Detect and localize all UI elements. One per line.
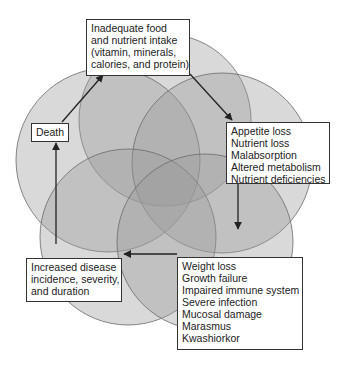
node-text: Impaired immune system (182, 284, 298, 296)
node-text: Inadequate food (91, 22, 185, 34)
node-text: (vitamin, minerals, (91, 46, 185, 58)
node-increased-disease: Increased disease incidence, severity, a… (26, 258, 122, 302)
node-appetite-loss: Appetite loss Nutrient loss Malabsorptio… (226, 122, 330, 184)
node-text: Appetite loss (231, 125, 325, 137)
node-death: Death (31, 123, 69, 142)
node-text: calories, and protein) (91, 58, 185, 70)
node-text: and duration (31, 285, 117, 297)
node-inadequate-intake: Inadequate food and nutrient intake (vit… (86, 19, 190, 76)
node-text: Mucosal damage (182, 308, 298, 320)
node-text: and nutrient intake (91, 34, 185, 46)
node-text: Severe infection (182, 296, 298, 308)
node-text: Death (36, 126, 64, 138)
node-text: Weight loss (182, 260, 298, 272)
node-text: Growth failure (182, 272, 298, 284)
node-text: Nutrient deficiencies (231, 173, 325, 185)
node-text: Altered metabolism (231, 161, 325, 173)
node-text: Increased disease (31, 261, 117, 273)
node-text: Nutrient loss (231, 137, 325, 149)
node-weight-loss: Weight loss Growth failure Impaired immu… (177, 257, 303, 350)
node-text: Kwashiorkor (182, 332, 298, 344)
node-text: Malabsorption (231, 149, 325, 161)
node-text: Marasmus (182, 320, 298, 332)
node-text: incidence, severity, (31, 273, 117, 285)
